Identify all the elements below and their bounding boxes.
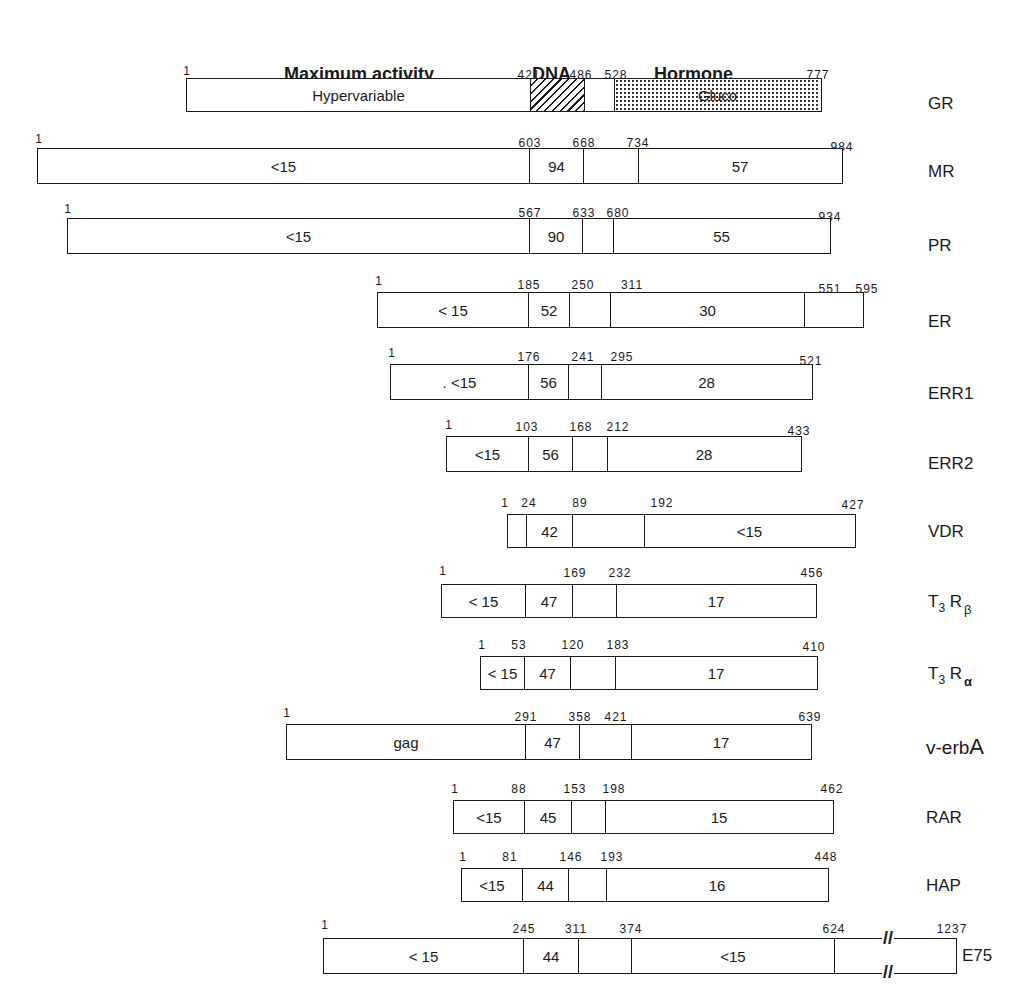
tick: 1 [501, 496, 509, 510]
receptor-row-mr: 1 603 668 734 984 <15 94 57 MR [0, 132, 1028, 192]
tick: 1 [445, 418, 453, 432]
segment-hypervariable: Hypervariable [187, 79, 531, 111]
segment-hinge [579, 939, 632, 973]
tick: 1 [375, 274, 383, 288]
tick: 374 [619, 922, 642, 936]
receptor-row-err1: 1 176 241 295 521 . <15 56 28 ERR1 [0, 346, 1028, 406]
segment-dna: 56 [529, 437, 573, 471]
receptor-row-t3r-beta: 1 169 232 456 < 15 47 17 T3 Rβ [0, 564, 1028, 624]
tick: 53 [511, 638, 526, 652]
receptor-row-v-erba: 1 291 358 421 639 gag 47 17 v-erbA [0, 706, 1028, 766]
tick: 462 [820, 782, 843, 796]
segment-hormone: 28 [608, 437, 800, 471]
segment-nterm [508, 515, 527, 547]
tick: 291 [514, 710, 537, 724]
segment-nterm: < 15 [378, 293, 529, 327]
receptor-name: T3 Rβ [928, 592, 972, 612]
segment-nterm: < 15 [442, 585, 526, 617]
tick: 1 [459, 850, 467, 864]
receptor-name: HAP [926, 876, 961, 896]
segment-dna: 47 [525, 657, 571, 689]
segment-nterm: . <15 [391, 365, 529, 399]
segment-hinge [583, 219, 614, 253]
tick: 456 [800, 566, 823, 580]
er-bar: < 15 52 30 [377, 292, 864, 328]
segment-nterm: <15 [68, 219, 530, 253]
receptor-row-er: 1 185 250 311 551 595 < 15 52 30 ER [0, 274, 1028, 334]
segment-hormone: 55 [614, 219, 829, 253]
segment-hinge [584, 149, 639, 183]
tick: 146 [559, 850, 582, 864]
segment-dna: 47 [526, 725, 580, 759]
segment-dna: 45 [525, 801, 572, 833]
tick: 183 [606, 638, 629, 652]
segment-nterm: < 15 [481, 657, 525, 689]
tick: 198 [602, 782, 625, 796]
receptor-name: RAR [926, 808, 962, 828]
receptor-row-e75: 1 245 311 374 624 1237 < 15 44 <15 // //… [0, 918, 1028, 978]
tick: 1 [183, 64, 191, 78]
receptor-row-rar: 1 88 153 198 462 <15 45 15 RAR [0, 780, 1028, 840]
break-mark-bottom: // [882, 962, 894, 983]
segment-cterm [835, 939, 955, 973]
tick: 1 [35, 132, 43, 146]
receptor-row-vdr: 1 24 89 192 427 42 <15 VDR [0, 494, 1028, 554]
segment-gag: gag [287, 725, 526, 759]
segment-hinge [573, 585, 617, 617]
tick: 168 [569, 420, 592, 434]
tick: 185 [517, 278, 540, 292]
segment-hormone: 15 [606, 801, 832, 833]
segment-dna: 44 [523, 869, 569, 901]
tick: 1 [451, 782, 459, 796]
receptor-name: PR [928, 236, 952, 256]
segment-nterm: < 15 [324, 939, 524, 973]
segment-dna: 52 [529, 293, 570, 327]
receptor-row-hap: 1 81 146 193 448 <15 44 16 HAP [0, 848, 1028, 908]
tick: 295 [610, 350, 633, 364]
rar-bar: <15 45 15 [453, 800, 834, 834]
t3r-beta-bar: < 15 47 17 [441, 584, 817, 618]
segment-hormone: <15 [645, 515, 854, 547]
receptor-name: v-erbA [926, 734, 984, 760]
tick: 1 [439, 564, 447, 578]
err1-bar: . <15 56 28 [390, 364, 813, 400]
receptor-name: MR [928, 162, 954, 182]
tick: 193 [600, 850, 623, 864]
tick: 639 [798, 710, 821, 724]
err2-bar: <15 56 28 [446, 436, 802, 472]
segment-hormone: <15 [632, 939, 835, 973]
break-mark-top: // [882, 928, 894, 949]
segment-dna: 94 [530, 149, 584, 183]
segment-hormone: 17 [632, 725, 810, 759]
segment-dna: 90 [530, 219, 583, 253]
segment-hormone: 16 [607, 869, 827, 901]
tick: 1 [321, 918, 329, 932]
tick: 153 [563, 782, 586, 796]
gr-bar: Hypervariable Gluco [186, 78, 822, 112]
v-erba-bar: gag 47 17 [286, 724, 812, 760]
receptor-name: VDR [928, 522, 964, 542]
segment-hormone: 28 [602, 365, 811, 399]
tick: 358 [568, 710, 591, 724]
pr-bar: <15 90 55 [67, 218, 831, 254]
segment-cterm [805, 293, 862, 327]
tick: 176 [517, 350, 540, 364]
tick: 410 [802, 640, 825, 654]
segment-label-gluco: Gluco [698, 87, 737, 104]
tick: 81 [502, 850, 517, 864]
segment-hormone: 57 [639, 149, 841, 183]
hap-bar: <15 44 16 [461, 868, 829, 902]
receptor-row-t3r-alpha: 1 53 120 183 410 < 15 47 17 T3 Rα [0, 636, 1028, 696]
segment-hinge [585, 79, 615, 111]
segment-hinge [569, 365, 602, 399]
tick: 245 [512, 922, 535, 936]
segment-hinge [569, 869, 607, 901]
segment-nterm: <15 [447, 437, 529, 471]
vdr-bar: 42 <15 [507, 514, 856, 548]
segment-hormone: 17 [617, 585, 815, 617]
tick: 624 [822, 922, 845, 936]
receptor-name: E75 [962, 946, 992, 966]
segment-hinge [570, 293, 611, 327]
receptor-row-gr: 1 421 486 528 777 Hypervariable Gluco GR [0, 64, 1028, 124]
tick: 232 [608, 566, 631, 580]
